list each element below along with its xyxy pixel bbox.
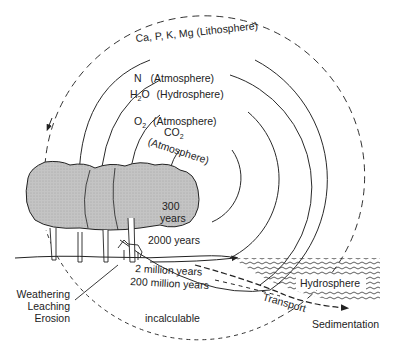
timescale-years: years bbox=[160, 212, 186, 224]
label-sedimentation: Sedimentation bbox=[312, 318, 379, 330]
timescale-incalculable: incalculable bbox=[145, 312, 200, 324]
label-erosion: Erosion bbox=[34, 312, 70, 324]
label-co2: CO2 bbox=[164, 126, 184, 140]
timescale-300: 300 bbox=[162, 200, 180, 212]
weathering-pointer bbox=[75, 265, 118, 300]
timescale-2000-years: 2000 years bbox=[148, 234, 200, 246]
label-hydrosphere: Hydrosphere bbox=[300, 277, 360, 289]
biogeochemical-cycles-diagram: Ca, P, K, Mg (Lithosphere) N (Atmosphere… bbox=[0, 0, 400, 344]
label-leaching: Leaching bbox=[27, 300, 70, 312]
label-water: H2O (Hydrosphere) bbox=[130, 88, 224, 102]
label-weathering: Weathering bbox=[16, 288, 70, 300]
label-lithosphere: Ca, P, K, Mg (Lithosphere) bbox=[135, 19, 259, 44]
label-co2-reservoir: (Atmosphere) bbox=[147, 135, 211, 166]
ground-line bbox=[15, 256, 235, 258]
timescale-200-million-years: 200 million years bbox=[130, 275, 209, 291]
label-nitrogen: N (Atmosphere) bbox=[134, 72, 214, 84]
label-transport: Transport bbox=[261, 290, 307, 314]
